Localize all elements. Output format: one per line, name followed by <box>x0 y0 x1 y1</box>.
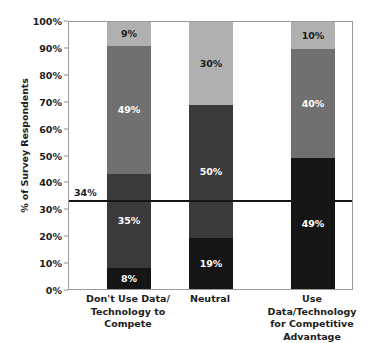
bar-segment: 30% <box>189 22 233 105</box>
reference-line-label: 34% <box>73 187 98 198</box>
y-tick-label: 60% <box>39 123 62 134</box>
x-axis-category-label: Use Data/Technology for Competitive Adva… <box>257 293 367 343</box>
bar-segment-value-label: 30% <box>200 59 223 69</box>
x-axis-category-labels: Don't Use Data/ Technology to CompeteNeu… <box>68 293 353 339</box>
bar-segment-value-label: 49% <box>302 219 325 229</box>
bar-segment-value-label: 8% <box>121 274 137 284</box>
bar-segment-value-label: 9% <box>121 29 137 39</box>
y-tick-label: 50% <box>39 150 62 161</box>
y-tick-label: 100% <box>33 16 62 27</box>
y-axis-tick-labels: 0%10%20%30%40%50%60%70%80%90%100% <box>24 0 68 343</box>
bar-segment: 40% <box>291 49 335 158</box>
y-tick-label: 10% <box>39 258 62 269</box>
bar-segment-value-label: 50% <box>200 167 223 177</box>
y-tick-label: 30% <box>39 204 62 215</box>
bar-column: 30%50%19% <box>189 22 233 289</box>
y-tick-label: 0% <box>46 285 62 296</box>
bar-column: 10%40%49% <box>291 22 335 289</box>
bar-segment-value-label: 49% <box>118 105 141 115</box>
bar-segment-value-label: 40% <box>302 99 325 109</box>
bar-segment-value-label: 10% <box>302 31 325 41</box>
bar-segment: 35% <box>107 174 151 267</box>
x-axis-category-label: Neutral <box>155 293 265 306</box>
bar-segment: 49% <box>291 158 335 289</box>
y-tick-label: 70% <box>39 96 62 107</box>
bar-segment: 50% <box>189 105 233 239</box>
bar-column: 9%49%35%8% <box>107 22 151 289</box>
bar-segment: 9% <box>107 22 151 46</box>
y-tick-label: 40% <box>39 177 62 188</box>
bar-segment: 8% <box>107 268 151 289</box>
y-tick-label: 90% <box>39 42 62 53</box>
bar-segment-value-label: 19% <box>200 259 223 269</box>
bar-segment: 49% <box>107 46 151 174</box>
y-tick-label: 80% <box>39 69 62 80</box>
stacked-bar-chart: % of Survey Respondents 0%10%20%30%40%50… <box>0 0 379 343</box>
y-tick-label: 20% <box>39 231 62 242</box>
reference-line-34-percent <box>69 200 352 202</box>
bar-segment: 19% <box>189 238 233 289</box>
bar-segment-value-label: 35% <box>118 216 141 226</box>
bar-segment: 10% <box>291 22 335 49</box>
plot-area: 9%49%35%8%30%50%19%10%40%49% 34% <box>68 21 353 290</box>
